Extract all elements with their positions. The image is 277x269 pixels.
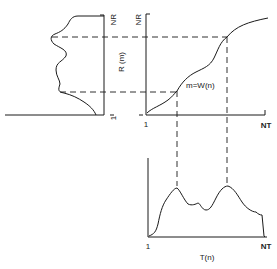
mapping-plot	[110, 14, 268, 115]
bottom-histogram-curve	[149, 186, 265, 237]
vertical-dashed-projections	[177, 37, 227, 186]
histogram-matching-diagram: NR NR R (m) 1 1 NT m=W(n) 1 NT T(n)	[0, 0, 277, 269]
left-histogram-curve	[51, 16, 104, 115]
mapping-curve-w	[147, 18, 268, 113]
mapping-plot-x-end-label: NT	[261, 121, 272, 130]
left-histogram-plot	[5, 15, 104, 115]
left-plot-nr-label: NR	[109, 14, 118, 26]
left-plot-one-label: 1	[109, 115, 118, 120]
labels: NR NR R (m) 1 1 NT m=W(n) 1 NT T(n)	[109, 14, 271, 262]
bottom-plot-x-start-label: 1	[146, 242, 151, 251]
mapping-plot-nr-label: NR	[134, 14, 143, 26]
bottom-histogram-plot	[148, 158, 267, 237]
mapping-curve-label: m=W(n)	[186, 81, 215, 90]
bottom-plot-x-end-label: NT	[261, 242, 272, 251]
mapping-plot-x-start-label: 1	[144, 120, 149, 129]
bottom-plot-axis-label: T(n)	[200, 253, 215, 262]
left-plot-axis-label: R (m)	[117, 52, 126, 72]
